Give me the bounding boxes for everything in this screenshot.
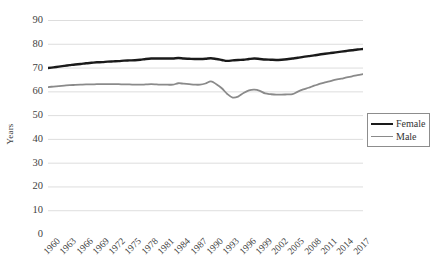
series-line-male (48, 74, 363, 97)
x-axis-tick-labels: 1960196319661969197219751978198119841987… (48, 236, 368, 273)
x-tick-label: 1975 (123, 236, 144, 257)
y-tick-label: 20 (18, 181, 48, 192)
y-tick-label: 50 (18, 110, 48, 121)
series-line-female (48, 49, 363, 68)
x-tick-label: 1987 (188, 236, 209, 257)
x-tick-label: 2005 (286, 236, 307, 257)
y-tick-label: 70 (18, 62, 48, 73)
y-tick-label: 80 (18, 39, 48, 50)
y-tick-label: 60 (18, 86, 48, 97)
x-tick-label: 2017 (351, 236, 372, 257)
legend-label: Male (396, 131, 417, 142)
legend-item-male[interactable]: Male (371, 130, 425, 143)
x-tick-label: 1978 (139, 236, 160, 257)
x-tick-label: 1993 (221, 236, 242, 257)
y-tick-label: 30 (18, 157, 48, 168)
y-axis-title: Years (2, 104, 18, 164)
y-tick-label: 90 (18, 15, 48, 26)
x-tick-label: 2014 (335, 236, 356, 257)
x-tick-label: 1984 (172, 236, 193, 257)
y-tick-label: 40 (18, 134, 48, 145)
legend-line-swatch (371, 123, 393, 125)
legend-item-female[interactable]: Female (371, 117, 425, 130)
series-lines (48, 49, 363, 98)
legend-line-swatch (371, 136, 393, 137)
x-tick-label: 1996 (237, 236, 258, 257)
gridlines (48, 21, 363, 235)
plot-svg (48, 20, 363, 234)
chart-legend: FemaleMale (367, 113, 430, 147)
y-axis-tick-labels: 9080706050403020100 (18, 0, 48, 273)
y-axis-title-label: Years (5, 123, 15, 144)
legend-label: Female (396, 118, 425, 129)
x-tick-label: 2008 (302, 236, 323, 257)
life-expectancy-line-chart: Years 9080706050403020100 19601963196619… (0, 0, 441, 273)
x-tick-label: 1963 (58, 236, 79, 257)
y-tick-label: 0 (18, 229, 48, 240)
plot-area (48, 20, 363, 234)
y-tick-label: 10 (18, 205, 48, 216)
x-tick-label: 1966 (74, 236, 95, 257)
